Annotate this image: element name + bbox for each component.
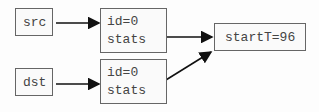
object-node-bottom: id=0 stats [100, 59, 167, 104]
id-label: id=0 [107, 65, 138, 80]
dst-node: dst [15, 68, 53, 96]
src-node: src [15, 8, 53, 36]
object-node-top: id=0 stats [100, 8, 167, 53]
id-label: id=0 [107, 14, 138, 29]
src-label: src [23, 15, 46, 30]
dst-label: dst [23, 75, 46, 90]
stats-field-label: stats [107, 83, 146, 98]
stats-node: startT=96 [214, 23, 306, 51]
startT-label: startT=96 [225, 30, 295, 45]
stats-field-label: stats [107, 32, 146, 47]
